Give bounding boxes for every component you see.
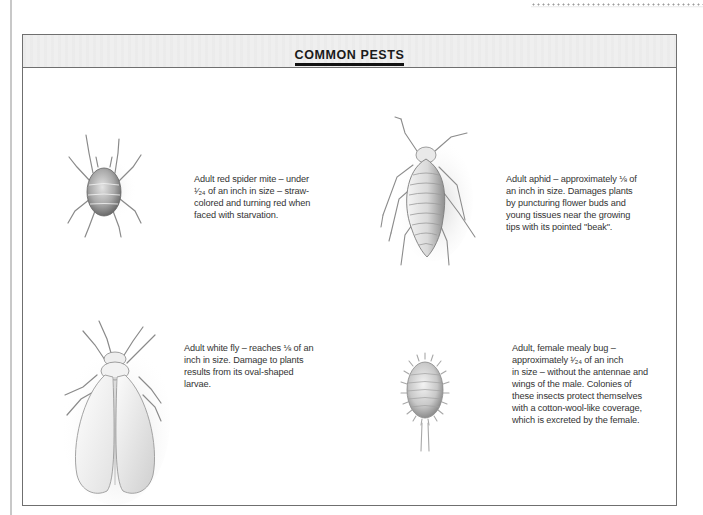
aphid-line-4: young tissues near the growing xyxy=(506,209,671,221)
mealy-bug-line-7: which is excreted by the female. xyxy=(512,414,682,426)
perforation-shadow xyxy=(531,6,703,8)
spider-mite-line-3: colored and turning red when xyxy=(194,197,364,209)
aphid-line-2: an inch in size. Damages plants xyxy=(506,185,671,197)
aphid-illustration xyxy=(375,115,485,270)
mealy-bug-illustration xyxy=(395,345,455,457)
mealy-bug-line-3: in size – without the antennae and xyxy=(512,366,682,378)
white-fly-illustration xyxy=(43,315,178,505)
spider-mite-line-2: ¹⁄₂₄ of an inch in size – straw- xyxy=(194,185,364,197)
white-fly-line-2: inch in size. Damage to plants xyxy=(184,354,354,366)
spider-mite-line-4: faced with starvation. xyxy=(194,209,364,221)
mealy-bug-line-2: approximately ¹⁄₂₄ of an inch xyxy=(512,354,682,366)
page-margin-line xyxy=(10,0,12,515)
panel-header: COMMON PESTS xyxy=(23,35,676,68)
aphid-line-5: tips with its pointed "beak". xyxy=(506,221,671,233)
page-title-text: COMMON PESTS xyxy=(295,47,405,66)
white-fly-description: Adult white fly – reaches ⅛ of an inch i… xyxy=(184,342,354,390)
page-title: COMMON PESTS xyxy=(23,47,676,66)
aphid-description: Adult aphid – approximately ⅛ of an inch… xyxy=(506,173,671,233)
white-fly-line-4: larvae. xyxy=(184,378,354,390)
aphid-line-3: by puncturing flower buds and xyxy=(506,197,671,209)
spider-mite-line-1: Adult red spider mite – under xyxy=(194,173,364,185)
white-fly-line-1: Adult white fly – reaches ⅛ of an xyxy=(184,342,354,354)
aphid-line-1: Adult aphid – approximately ⅛ of xyxy=(506,173,671,185)
mealy-bug-line-4: wings of the male. Colonies of xyxy=(512,378,682,390)
mealy-bug-line-1: Adult, female mealy bug – xyxy=(512,342,682,354)
mealy-bug-line-5: these insects protect themselves xyxy=(512,390,682,402)
mealy-bug-line-6: with a cotton-wool-like coverage, xyxy=(512,402,682,414)
mealy-bug-description: Adult, female mealy bug – approximately … xyxy=(512,342,682,426)
spider-mite-illustration xyxy=(63,133,143,238)
white-fly-line-3: results from its oval-shaped xyxy=(184,366,354,378)
spider-mite-description: Adult red spider mite – under ¹⁄₂₄ of an… xyxy=(194,173,364,221)
common-pests-panel: COMMON PESTS xyxy=(22,34,677,506)
